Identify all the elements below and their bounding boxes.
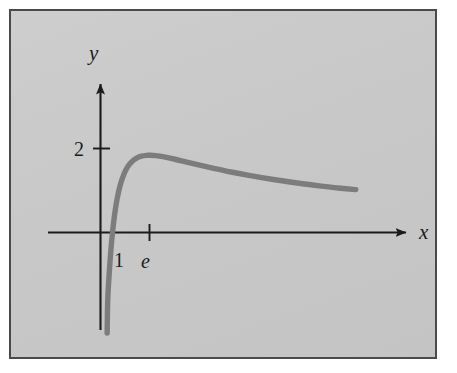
y-tick-label-2: 2 <box>74 139 84 159</box>
y-axis-label: y <box>89 43 98 64</box>
plot-canvas <box>0 0 457 373</box>
curve-line <box>107 155 356 333</box>
x-tick-label-e: e <box>141 251 150 271</box>
x-tick-label-1: 1 <box>114 250 124 270</box>
figure-root: y x 2 1 e <box>0 0 457 373</box>
x-axis-label: x <box>419 222 428 243</box>
